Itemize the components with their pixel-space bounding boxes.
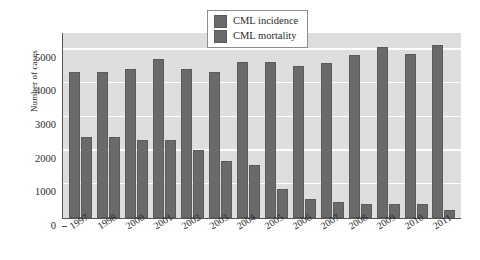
bar <box>249 165 260 218</box>
y-tick-label: 0 <box>51 221 56 232</box>
x-tick-cell: 1998 <box>94 219 122 259</box>
bar-group <box>235 33 263 218</box>
bar <box>221 161 232 218</box>
x-tick-cell: 2011 <box>429 219 457 259</box>
bars-layer <box>63 33 461 218</box>
bar-group <box>290 33 318 218</box>
x-tick-cell: 2006 <box>289 219 317 259</box>
y-tick-label: 3000 <box>35 120 56 131</box>
x-tick-cell: 2003 <box>206 219 234 259</box>
bar-group <box>262 33 290 218</box>
bar <box>237 62 248 218</box>
bar <box>165 140 176 218</box>
x-tick-cell: 2010 <box>401 219 429 259</box>
plot-area <box>62 33 461 219</box>
bar-group <box>402 33 430 218</box>
bar <box>181 69 192 218</box>
x-tick-cell: 1997 <box>66 219 94 259</box>
x-tick-cell: 2000 <box>122 219 150 259</box>
bar <box>377 47 388 218</box>
bar-group <box>123 33 151 218</box>
x-tick-cell: 2007 <box>317 219 345 259</box>
bar-group <box>430 33 458 218</box>
bar <box>109 137 120 218</box>
chart-legend: CML incidenceCML mortality <box>207 10 308 48</box>
legend-item: CML mortality <box>214 30 298 43</box>
x-tick-cell: 2002 <box>178 219 206 259</box>
bar <box>193 150 204 218</box>
legend-swatch-icon <box>214 15 227 28</box>
x-tick-cell: 2004 <box>234 219 262 259</box>
y-tick-label: 5000 <box>35 53 56 64</box>
bar <box>125 69 136 218</box>
y-tick-label: 4000 <box>35 86 56 97</box>
bar-group <box>95 33 123 218</box>
legend-label: CML mortality <box>233 31 296 42</box>
bar <box>81 137 92 218</box>
x-tick-cell: 2001 <box>150 219 178 259</box>
legend-label: CML incidence <box>233 16 298 27</box>
bar <box>69 72 80 218</box>
bar <box>97 72 108 218</box>
bar-chart: Number of cases 010002000300040005000 19… <box>0 0 480 260</box>
bar <box>293 66 304 218</box>
bar <box>209 72 220 218</box>
bar-group <box>67 33 95 218</box>
y-tick-label: 2000 <box>35 153 56 164</box>
bar <box>153 59 164 218</box>
bar-group <box>374 33 402 218</box>
y-tick-label: 1000 <box>35 187 56 198</box>
legend-swatch-icon <box>214 30 227 43</box>
x-axis-tick-labels: 1997199820002001200220032004200520062007… <box>62 219 460 259</box>
bar <box>432 45 443 218</box>
x-tick-cell: 2008 <box>345 219 373 259</box>
bar-group <box>318 33 346 218</box>
bar <box>321 63 332 218</box>
bar-group <box>179 33 207 218</box>
legend-item: CML incidence <box>214 15 298 28</box>
y-axis-tick-labels: 010002000300040005000 <box>18 41 56 219</box>
bar-group <box>151 33 179 218</box>
bar <box>349 55 360 218</box>
x-tick-cell: 2005 <box>261 219 289 259</box>
bar <box>137 140 148 218</box>
x-tick-cell: 2009 <box>373 219 401 259</box>
bar <box>265 62 276 218</box>
bar <box>405 54 416 218</box>
bar-group <box>207 33 235 218</box>
bar-group <box>346 33 374 218</box>
